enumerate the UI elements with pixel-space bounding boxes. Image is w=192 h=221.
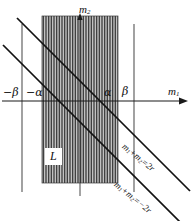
region-label-L: L (45, 148, 62, 165)
tick-label-beta: β (122, 86, 128, 97)
axis-label-m1: m1 (168, 86, 179, 98)
axis-label-m2: m2 (79, 4, 90, 16)
diagram-canvas (0, 0, 192, 221)
tick-label-alpha: α (104, 87, 111, 98)
tick-label-neg-alpha: −α (26, 87, 43, 98)
tick-label-neg-beta: −β (3, 87, 19, 98)
region-L-diagram: m2 m1 −β −α α β L m1+m2=2r m1+m2=−2r (0, 0, 192, 221)
